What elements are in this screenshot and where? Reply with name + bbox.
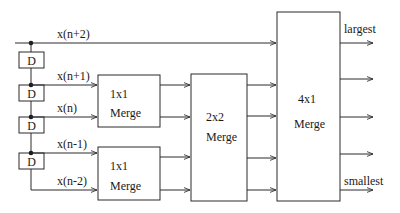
input-label-x-n-minus-2: x(n-2) xyxy=(57,174,87,188)
merge-2x2-label: Merge xyxy=(206,130,237,144)
merge-1x1-top-size: 1x1 xyxy=(110,87,128,101)
delay-label-1: D xyxy=(27,54,36,68)
merge-1x1-top: 1x1 Merge xyxy=(98,75,160,127)
delay-label-4: D xyxy=(27,155,36,169)
output-label-smallest: smallest xyxy=(344,174,384,188)
merge-4x1-size: 4x1 xyxy=(298,92,316,106)
merge-1x1-top-label: Merge xyxy=(110,106,141,120)
merge-1x1-bottom-size: 1x1 xyxy=(110,159,128,173)
input-label-x-n-plus-2: x(n+2) xyxy=(57,27,90,41)
stage2-to-stage3-wires xyxy=(247,85,276,190)
sorting-network-diagram: D D D D x(n+2) x(n+1) x(n) x(n-1) x(n-2)… xyxy=(0,0,400,213)
merge-4x1-label: Merge xyxy=(294,117,325,131)
delay-label-2: D xyxy=(27,87,36,101)
merge-4x1: 4x1 Merge xyxy=(277,12,340,201)
output-wires: largest smallest xyxy=(340,22,384,190)
input-label-x-n: x(n) xyxy=(57,101,77,115)
input-label-x-n-plus-1: x(n+1) xyxy=(57,69,90,83)
merge-2x2-size: 2x2 xyxy=(206,110,224,124)
input-label-x-n-minus-1: x(n-1) xyxy=(57,137,87,151)
merge-2x2: 2x2 Merge xyxy=(191,74,247,201)
delay-label-3: D xyxy=(27,119,36,133)
merge-1x1-bottom-label: Merge xyxy=(110,179,141,193)
output-label-largest: largest xyxy=(344,22,376,36)
delay-chain: D D D D xyxy=(19,41,44,190)
stage1-to-stage2-wires xyxy=(160,85,190,190)
merge-1x1-bottom: 1x1 Merge xyxy=(98,147,160,200)
